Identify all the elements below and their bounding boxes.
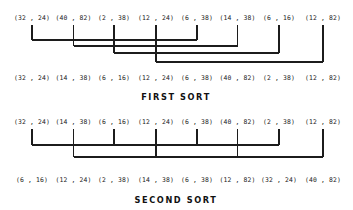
second-sort-input-label: (6 , 16) [98,118,130,126]
first-sort-input-label: (12 , 24) [138,14,174,22]
first-sort-wires [0,0,353,210]
first-sort-output-label: (6 , 38) [181,74,213,82]
second-sort-output-label: (40 , 82) [305,176,341,184]
second-sort-input-label: (40 , 82) [220,118,256,126]
first-sort-output-label: (6 , 16) [98,74,130,82]
second-sort-input-label: (2 , 38) [263,118,295,126]
second-sort-input-label: (12 , 24) [138,118,174,126]
second-sort-input-label: (32 , 24) [14,118,50,126]
second-sort-output-label: (6 , 38) [181,176,213,184]
first-sort-output-label: (2 , 38) [263,74,295,82]
second-sort-output-label: (14 , 38) [138,176,174,184]
second-sort-output-label: (12 , 24) [56,176,92,184]
first-sort-input-label: (6 , 16) [263,14,295,22]
first-sort-output-label: (40 , 82) [220,74,256,82]
second-sort-input-label: (6 , 38) [181,118,213,126]
first-sort-input-label: (14 , 38) [220,14,256,22]
second-sort-input-label: (12 , 82) [305,118,341,126]
first-sort-input-label: (2 , 38) [98,14,130,22]
sorting-network-figure: (32 , 24) (40 , 82) (2 , 38) (12 , 24) (… [0,0,353,210]
second-sort-caption: SECOND SORT [135,195,218,205]
second-sort-output-label: (6 , 16) [16,176,48,184]
second-sort-output-label: (32 , 24) [261,176,297,184]
second-sort-input-label: (14 , 38) [56,118,92,126]
first-sort-output-label: (32 , 24) [14,74,50,82]
first-sort-input-label: (12 , 82) [305,14,341,22]
second-sort-output-label: (2 , 38) [98,176,130,184]
first-sort-input-label: (40 , 82) [56,14,92,22]
second-sort-output-label: (12 , 82) [220,176,256,184]
first-sort-output-label: (14 , 38) [56,74,92,82]
first-sort-caption: FIRST SORT [141,92,211,102]
first-sort-input-label: (32 , 24) [14,14,50,22]
first-sort-input-label: (6 , 38) [181,14,213,22]
second-sort-wires [0,0,353,210]
first-sort-output-label: (12 , 24) [138,74,174,82]
first-sort-output-label: (12 , 82) [305,74,341,82]
